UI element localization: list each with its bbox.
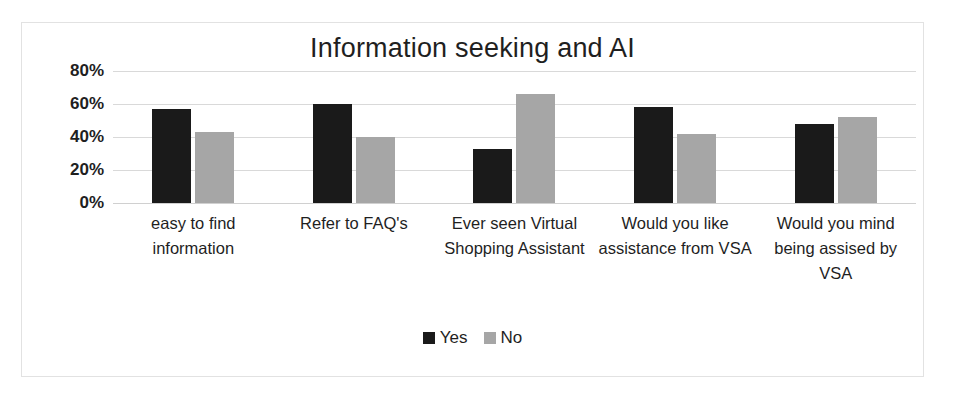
bar-yes[interactable] xyxy=(313,104,352,203)
legend-item-yes[interactable]: Yes xyxy=(423,328,468,348)
bar-group xyxy=(274,71,435,203)
bar-no[interactable] xyxy=(195,132,234,203)
bar-group xyxy=(113,71,274,203)
legend-swatch-gray xyxy=(484,332,496,344)
chart-title: Information seeking and AI xyxy=(22,33,923,64)
bar-no[interactable] xyxy=(677,134,716,203)
legend-item-no[interactable]: No xyxy=(484,328,523,348)
y-axis-tick-label: 40% xyxy=(70,127,104,147)
legend-label: Yes xyxy=(440,328,468,348)
bar-no[interactable] xyxy=(838,117,877,203)
y-axis-tick-label: 20% xyxy=(70,160,104,180)
y-axis-tick-label: 0% xyxy=(79,193,104,213)
legend-swatch-black xyxy=(423,332,435,344)
legend-label: No xyxy=(501,328,523,348)
bar-yes[interactable] xyxy=(473,149,512,203)
chart-legend: YesNo xyxy=(22,328,923,348)
x-axis-category-label: Ever seen Virtual Shopping Assistant xyxy=(434,211,595,286)
bar-yes[interactable] xyxy=(795,124,834,203)
x-axis-category-label: easy to find information xyxy=(113,211,274,286)
bar-group xyxy=(434,71,595,203)
bar-no[interactable] xyxy=(516,94,555,203)
x-axis-category-label: Would you like assistance from VSA xyxy=(595,211,756,286)
y-axis-tick-label: 80% xyxy=(70,61,104,81)
x-axis-category-labels: easy to find informationRefer to FAQ'sEv… xyxy=(113,211,916,286)
plot-area: 80%60%40%20%0% xyxy=(113,71,916,203)
bar-group xyxy=(595,71,756,203)
bar-group xyxy=(755,71,916,203)
bar-yes[interactable] xyxy=(634,107,673,203)
x-axis-category-label: Would you mind being assised by VSA xyxy=(755,211,916,286)
y-axis-tick-label: 60% xyxy=(70,94,104,114)
bars-layer xyxy=(113,71,916,203)
bar-no[interactable] xyxy=(356,137,395,203)
chart-frame: Information seeking and AI 80%60%40%20%0… xyxy=(21,22,924,377)
gridline-0: 0% xyxy=(113,203,916,204)
bar-yes[interactable] xyxy=(152,109,191,203)
x-axis-category-label: Refer to FAQ's xyxy=(274,211,435,286)
